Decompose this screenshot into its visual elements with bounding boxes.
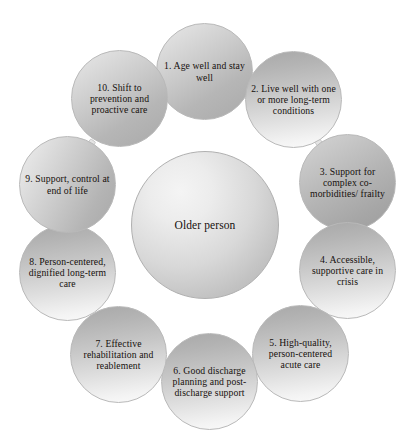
center-node-label: Older person [170, 218, 241, 233]
care-pathway-diagram: Older person 1. Age well and stay well 2… [0, 0, 410, 441]
node-7-rehabilitation-reablement[interactable]: 7. Effective rehabilitation and reableme… [70, 306, 167, 403]
node-6-label: 6. Good discharge planning and post-disc… [162, 365, 257, 399]
node-8-label: 8. Person-centered, dignified long-term … [20, 256, 115, 290]
node-1-label: 1. Age well and stay well [157, 60, 252, 83]
node-9-end-of-life-support[interactable]: 9. Support, control at end of life [19, 136, 116, 233]
node-1-age-well[interactable]: 1. Age well and stay well [156, 23, 253, 120]
node-8-long-term-care[interactable]: 8. Person-centered, dignified long-term … [19, 224, 116, 321]
node-4-accessible-crisis-care[interactable]: 4. Accessible, supportive care in crisis [299, 222, 396, 319]
node-5-label: 5. High-quality, person-centered acute c… [253, 337, 348, 371]
node-6-discharge-planning[interactable]: 6. Good discharge planning and post-disc… [161, 333, 258, 430]
node-7-label: 7. Effective rehabilitation and reableme… [71, 338, 166, 372]
node-9-label: 9. Support, control at end of life [20, 173, 115, 196]
node-3-complex-comorbidities[interactable]: 3. Support for complex co-morbidities/ f… [299, 134, 396, 231]
node-3-label: 3. Support for complex co-morbidities/ f… [300, 166, 395, 200]
node-2-label: 2. Live well with one or more long-term … [246, 83, 341, 117]
node-5-acute-care[interactable]: 5. High-quality, person-centered acute c… [252, 305, 349, 402]
node-4-label: 4. Accessible, supportive care in crisis [300, 254, 395, 288]
node-2-live-well-ltc[interactable]: 2. Live well with one or more long-term … [245, 51, 342, 148]
center-node-older-person[interactable]: Older person [131, 151, 279, 299]
node-10-prevention-proactive-care[interactable]: 10. Shift to prevention and proactive ca… [71, 50, 168, 147]
node-10-label: 10. Shift to prevention and proactive ca… [72, 82, 167, 116]
